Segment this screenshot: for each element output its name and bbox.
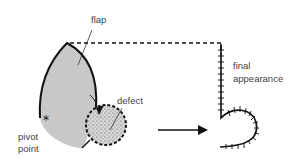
pivot-star-icon: * bbox=[43, 113, 49, 127]
label-final-line1: final bbox=[233, 60, 250, 71]
dashed-connector bbox=[70, 43, 221, 55]
label-final-line2: appearance bbox=[233, 73, 283, 84]
arrow-head-icon bbox=[198, 125, 208, 135]
label-pivot-line2: point bbox=[18, 143, 39, 154]
label-defect: defect bbox=[117, 95, 143, 106]
label-pivot-line1: pivot bbox=[18, 131, 38, 142]
label-flap: flap bbox=[91, 14, 106, 25]
